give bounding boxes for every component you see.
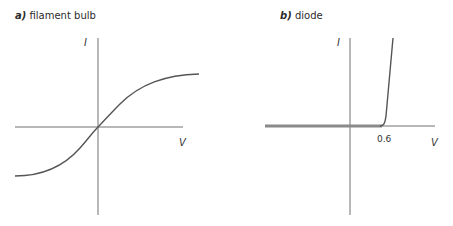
panel-a-x-label: V: [179, 137, 187, 148]
panel-b-graph: I 0.6 V: [265, 37, 439, 215]
iv-diagrams: I V I 0.6 V: [0, 0, 453, 226]
panel-b-y-label: I: [337, 37, 340, 48]
panel-a-graph: I V: [15, 37, 199, 215]
panel-b-tick-label: 0.6: [377, 134, 392, 144]
panel-b-curve: [380, 38, 393, 126]
panel-b-x-label: V: [431, 137, 439, 148]
panel-a-curve: [15, 74, 199, 176]
panel-a-y-label: I: [84, 37, 87, 48]
